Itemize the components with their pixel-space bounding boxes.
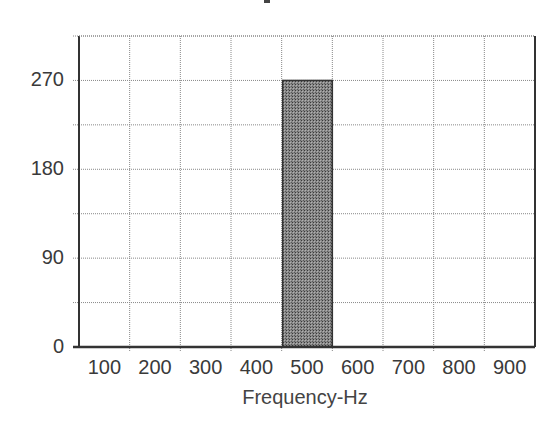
x-tick-label: 800: [434, 356, 484, 378]
x-axis-title: Frequency-Hz: [180, 386, 430, 409]
bars: [283, 80, 333, 347]
x-tick-label: 900: [485, 356, 535, 378]
y-tick-label: 0: [53, 336, 64, 356]
x-tick-label: 400: [231, 356, 281, 378]
plot-area: [79, 36, 535, 347]
title-fragment: [264, 0, 270, 3]
y-tick-label: 270: [31, 69, 64, 89]
x-tick-label: 200: [130, 356, 180, 378]
bar-500: [283, 80, 333, 347]
y-tick-label: 90: [42, 247, 64, 267]
x-tick-label: 600: [333, 356, 383, 378]
chart-canvas: [79, 36, 535, 347]
y-tick-label: 180: [31, 158, 64, 178]
x-tick-label: 700: [383, 356, 433, 378]
x-tick-label: 100: [79, 356, 129, 378]
x-tick-label: 300: [181, 356, 231, 378]
x-tick-label: 500: [282, 356, 332, 378]
